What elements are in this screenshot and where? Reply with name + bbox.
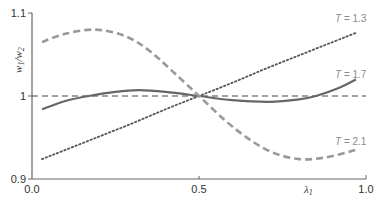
- x-tick-label-1.0: 1.0: [358, 183, 373, 195]
- x-tick-label-0.5: 0.5: [191, 183, 206, 195]
- line-chart: 1.1 1 0.9 0.0 0.5 1.0 w1/w2 λ1 T = 1.3 T…: [0, 0, 381, 207]
- series-label-t17: T = 1.7: [335, 69, 367, 80]
- y-tick-label-1: 1: [20, 90, 26, 102]
- x-tick-label-0.0: 0.0: [24, 183, 39, 195]
- series-t21-line: [42, 30, 356, 160]
- series-label-t21: T = 2.1: [335, 136, 367, 147]
- y-axis-title: w1/w2: [12, 47, 26, 73]
- series-label-t13: T = 1.3: [335, 13, 367, 24]
- y-tick-label-1.1: 1.1: [11, 7, 26, 19]
- x-axis-title: λ1: [303, 183, 313, 197]
